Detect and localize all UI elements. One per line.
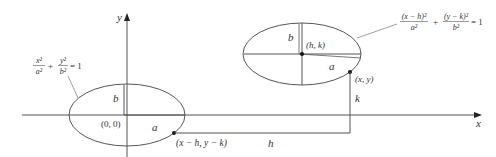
svg-text:= 1: = 1 xyxy=(70,61,82,71)
origin-equation-pointer xyxy=(68,76,78,98)
y-axis-label: y xyxy=(116,11,122,23)
y-axis-arrow-icon xyxy=(124,13,130,21)
svg-text:(y − k)²: (y − k)² xyxy=(444,12,469,21)
translated-point-label: (x − h, y − k) xyxy=(176,138,227,149)
svg-text:b²: b² xyxy=(60,67,67,76)
origin-ellipse-equation: x² a² + y² b² = 1 xyxy=(33,56,82,76)
origin-a-label: a xyxy=(152,121,158,133)
svg-text:+: + xyxy=(433,17,438,27)
translated-a-label: a xyxy=(329,60,335,72)
translated-b-label: b xyxy=(288,31,294,43)
origin-ellipse-semiaxes xyxy=(124,85,185,115)
k-label: k xyxy=(355,92,361,104)
svg-text:y²: y² xyxy=(59,56,67,65)
translated-ellipse-equation: (x − h)² a² + (y − k)² b² = 1 xyxy=(400,12,483,32)
svg-text:(x − h)²: (x − h)² xyxy=(402,12,427,21)
svg-text:a²: a² xyxy=(36,67,43,76)
center-hk-label: (h, k) xyxy=(306,40,325,50)
ellipse-translation-diagram: y x b a (0, 0) (x − h, y − k) x² a² + y²… xyxy=(0,0,496,157)
h-label: h xyxy=(268,137,274,149)
point-xy-label: (x, y) xyxy=(355,74,373,84)
svg-text:a²: a² xyxy=(411,23,418,32)
svg-text:x²: x² xyxy=(35,56,43,65)
origin-b-label: b xyxy=(113,92,119,104)
svg-text:b²: b² xyxy=(453,23,460,32)
translation-path xyxy=(174,72,350,133)
x-axis-label: x xyxy=(475,117,481,129)
center-hk-dot xyxy=(300,52,304,56)
svg-text:= 1: = 1 xyxy=(471,17,483,27)
translated-equation-pointer xyxy=(357,24,397,38)
diagram-svg: y x b a (0, 0) (x − h, y − k) x² a² + y²… xyxy=(0,0,496,157)
svg-text:+: + xyxy=(48,61,53,71)
origin-center-label: (0, 0) xyxy=(101,119,121,129)
